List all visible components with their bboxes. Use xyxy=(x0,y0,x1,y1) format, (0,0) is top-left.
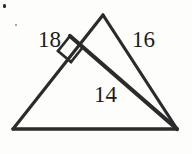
segment-length-label-14: 14 xyxy=(94,83,117,106)
triangle-cevian xyxy=(70,36,177,129)
geometry-figure: 18 16 14 xyxy=(0,0,192,154)
scan-artifact-dot xyxy=(15,24,17,26)
scan-artifact-speck xyxy=(3,4,6,8)
side-length-label-16: 16 xyxy=(132,28,155,51)
triangle-diagram-svg xyxy=(0,0,192,154)
side-length-label-18: 18 xyxy=(38,28,61,51)
